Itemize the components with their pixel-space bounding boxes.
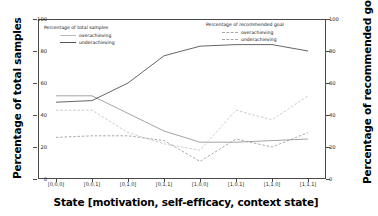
y-axis-label-left: Percentage of total samples (11, 29, 23, 179)
tick-mark (236, 179, 237, 182)
tick-mark (326, 115, 330, 116)
dashed-line-swatch-icon (222, 32, 238, 33)
legend-total-samples: Percentage of total samples overachievin… (44, 24, 115, 46)
x-axis-label: State [motivation, self-efficacy, contex… (36, 196, 336, 208)
y-tick-right: 0 (329, 176, 349, 182)
tick-mark (33, 179, 37, 180)
tick-mark (33, 115, 37, 116)
legend-right-title: Percentage of recommended goal (206, 21, 284, 28)
line-swatch-icon (60, 42, 76, 43)
legend-left-item-underachieving: underachieving (44, 39, 115, 46)
tick-mark (326, 179, 330, 180)
y-tick-right: 60 (329, 80, 349, 86)
line-swatch-icon (60, 35, 76, 36)
tick-mark (56, 179, 57, 182)
tick-mark (33, 83, 37, 84)
chart-figure: Percentage of total samples Percentage o… (0, 0, 378, 216)
legend-recommended-goal: Percentage of recommended goal overachie… (206, 21, 284, 43)
tick-mark (33, 51, 37, 52)
series-line-2 (56, 96, 308, 150)
y-tick-right: 20 (329, 144, 349, 150)
tick-mark (33, 19, 37, 20)
y-tick-right: 40 (329, 112, 349, 118)
tick-mark (272, 179, 273, 182)
tick-mark (326, 83, 330, 84)
legend-right-label-1: underachieving (241, 36, 277, 43)
tick-mark (200, 179, 201, 182)
legend-left-item-overachieving: overachieving (44, 32, 115, 39)
tick-mark (326, 147, 330, 148)
legend-right-item-underachieving: underachieving (206, 36, 284, 43)
legend-right-label-0: overachieving (241, 29, 273, 36)
legend-left-title: Percentage of total samples (44, 24, 115, 31)
tick-mark (326, 51, 330, 52)
y-axis-label-right: Percentage of recommended goal (361, 24, 373, 184)
tick-mark (308, 179, 309, 182)
tick-mark (164, 179, 165, 182)
tick-mark (33, 147, 37, 148)
series-line-1 (56, 45, 308, 103)
tick-mark (326, 19, 330, 20)
tick-mark (92, 179, 93, 182)
legend-left-label-0: overachieving (79, 32, 111, 39)
y-tick-right: 80 (329, 48, 349, 54)
tick-mark (128, 179, 129, 182)
y-tick-right: 100 (329, 16, 349, 22)
dashed-line-swatch-icon (222, 39, 238, 40)
legend-right-item-overachieving: overachieving (206, 29, 284, 36)
legend-left-label-1: underachieving (79, 39, 115, 46)
